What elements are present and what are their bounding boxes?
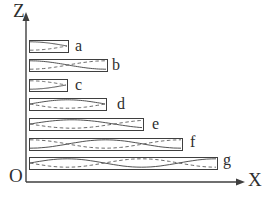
wave-solid-a [30,42,67,46]
wave-box-f [30,139,183,151]
wave-solid-d [30,100,105,104]
bar-label-c: c [75,77,82,93]
wave-solid-c [30,85,66,89]
origin-label: O [9,166,23,185]
wave-solid-g [30,159,216,167]
standing-wave-diagram: Z O X a b c d e f g [0,0,269,199]
x-axis-arrowhead [236,179,245,186]
wave-box-d [30,99,107,111]
bar-label-e: e [152,116,159,132]
wave-dashed-a [30,46,67,50]
wave-dashed-d [30,104,105,108]
diagram-canvas [0,0,269,199]
z-axis-label: Z [13,1,25,20]
wave-dashed-b [30,61,106,69]
x-axis-label: X [248,170,262,189]
wave-dashed-c [30,81,66,85]
bar-label-b: b [112,57,120,73]
wave-solid-e [30,120,142,128]
bar-label-a: a [75,38,82,54]
bar-label-f: f [190,134,195,150]
bar-label-g: g [223,152,231,168]
bar-label-d: d [117,96,125,112]
